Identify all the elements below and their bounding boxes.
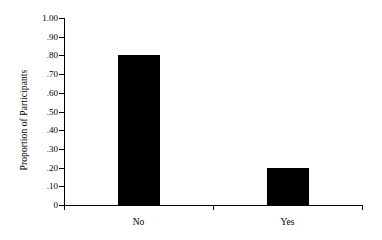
chart-axes [0,0,382,240]
x-axis-tick-label: Yes [248,216,328,228]
bar [267,168,309,205]
bar [118,55,160,205]
x-axis-tick-label: No [99,216,179,228]
bar-chart: Proportion of Participants 1.00.90.80.70… [0,0,382,240]
